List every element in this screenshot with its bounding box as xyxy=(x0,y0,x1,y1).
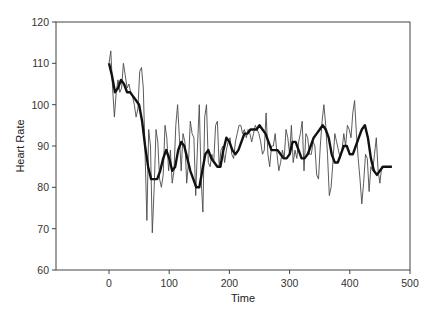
y-tick-label: 60 xyxy=(37,264,49,276)
y-axis: 60708090100110120 xyxy=(31,16,56,276)
x-tick-label: 400 xyxy=(341,277,359,289)
x-tick-label: 200 xyxy=(221,277,239,289)
y-tick-label: 120 xyxy=(31,16,49,28)
x-axis-title: Time xyxy=(231,292,255,304)
x-tick-label: 100 xyxy=(160,277,178,289)
y-tick-label: 80 xyxy=(37,181,49,193)
y-tick-label: 110 xyxy=(32,57,49,69)
y-tick-label: 100 xyxy=(31,99,49,111)
raw-heart-rate-series xyxy=(109,51,384,233)
x-tick-label: 300 xyxy=(281,277,299,289)
x-tick-label: 0 xyxy=(106,277,112,289)
y-tick-label: 70 xyxy=(37,223,49,235)
y-tick-label: 90 xyxy=(37,140,49,152)
heart-rate-chart: 60708090100110120 0100200300400500 Time … xyxy=(0,0,435,319)
x-axis: 0100200300400500 xyxy=(106,270,419,289)
x-tick-label: 500 xyxy=(401,277,419,289)
y-axis-title: Heart Rate xyxy=(14,119,26,172)
smoothed-heart-rate-series xyxy=(109,63,392,187)
